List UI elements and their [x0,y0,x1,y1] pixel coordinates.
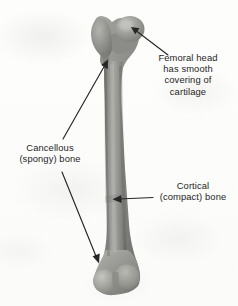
label-cortical-line-1: Cortical [148,180,238,191]
femoral-head-highlight [119,20,133,31]
bone-body [91,16,144,295]
label-femoral-head-line-1: Femoral head [142,52,234,63]
label-femoral-head-line-4: cartilage [142,86,234,97]
label-cortical-line-2: (compact) bone [148,191,238,202]
label-femoral-head: Femoral head has smooth covering of cart… [142,52,234,97]
femur-anatomy-figure: Femoral head has smooth covering of cart… [0,0,238,306]
arrow-cancellous-lower [62,172,100,264]
label-cancellous-line-1: Cancellous [4,142,96,153]
medial-condyle [93,270,115,293]
label-femoral-head-line-3: covering of [142,74,234,85]
label-cancellous-bone: Cancellous (spongy) bone [4,142,96,164]
label-cancellous-line-2: (spongy) bone [4,153,96,164]
label-cortical-bone: Cortical (compact) bone [148,180,238,202]
label-femoral-head-line-2: has smooth [142,63,234,74]
arrow-cancellous-upper [63,60,108,140]
